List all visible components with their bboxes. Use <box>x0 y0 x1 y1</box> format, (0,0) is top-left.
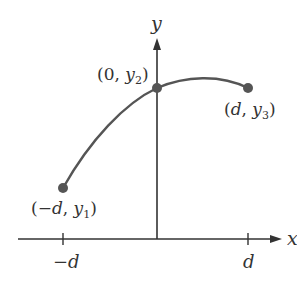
tick-label-neg-d: −d <box>53 253 80 271</box>
diagram-canvas <box>0 0 297 286</box>
curve <box>63 78 248 188</box>
paren-open: ( <box>31 198 38 218</box>
paren-close: ) <box>142 64 149 84</box>
point-1-marker <box>58 183 68 193</box>
point-2-label: (0, y2) <box>97 66 149 86</box>
paren-close: ) <box>90 198 97 218</box>
paren-open: ( <box>97 64 104 84</box>
separator: , <box>242 99 253 119</box>
point-1-label: (−d, y1) <box>31 200 97 220</box>
tick-label-pos-d: d <box>243 253 255 271</box>
paren-close: ) <box>269 99 276 119</box>
point-3-label: (d, y3) <box>224 101 276 121</box>
separator: , <box>114 64 125 84</box>
tick-var: d <box>68 251 80 272</box>
separator: , <box>63 198 74 218</box>
coord-x: −d <box>38 198 63 218</box>
point-2-marker <box>152 83 162 93</box>
coord-y: y <box>74 198 84 218</box>
y-axis-label: y <box>151 14 162 33</box>
coord-x: d <box>231 99 242 119</box>
point-3-marker <box>243 83 253 93</box>
coord-y: y <box>252 99 262 119</box>
paren-open: ( <box>224 99 231 119</box>
subscript: 2 <box>135 74 142 87</box>
y-axis-arrow-icon <box>153 38 161 50</box>
coord-y: y <box>125 64 135 84</box>
tick-minus: − <box>53 251 68 272</box>
x-axis-label: x <box>287 229 297 248</box>
coord-x: 0 <box>104 64 115 84</box>
subscript: 3 <box>262 109 269 122</box>
x-axis-arrow-icon <box>270 235 282 243</box>
